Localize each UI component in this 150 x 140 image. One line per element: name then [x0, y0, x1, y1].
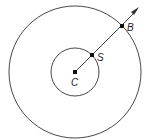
- point-c: [73, 70, 77, 74]
- arrowhead-icon: [131, 7, 139, 15]
- concentric-circles-diagram: C S B: [0, 0, 150, 140]
- label-s: S: [97, 52, 104, 63]
- label-b: B: [127, 22, 134, 33]
- point-b: [120, 24, 124, 28]
- label-c: C: [71, 77, 79, 88]
- point-s: [90, 53, 94, 57]
- ray-line: [75, 10, 137, 72]
